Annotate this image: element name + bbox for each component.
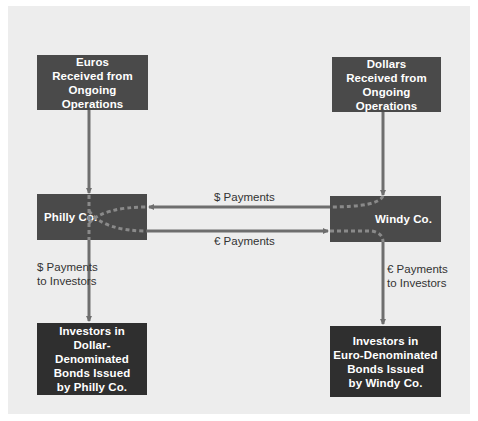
euro-payments-label: € Payments bbox=[214, 234, 275, 248]
euro-to-investors-label: € Payments to Investors bbox=[387, 262, 448, 290]
dollar-investors-box: Investors in Dollar-Denominated Bonds Is… bbox=[37, 323, 147, 395]
euros-received-box: Euros Received from Ongoing Operations bbox=[37, 55, 148, 110]
dollars-received-box: Dollars Received from Ongoing Operations bbox=[332, 57, 441, 112]
euro-investors-box: Investors in Euro-Denominated Bonds Issu… bbox=[330, 326, 441, 397]
philly-co-label: Philly Co. bbox=[44, 210, 97, 224]
dollar-investors-label: Investors in Dollar-Denominated Bonds Is… bbox=[37, 324, 147, 394]
dollar-to-investors-label: $ Payments to Investors bbox=[37, 260, 98, 288]
euro-investors-label: Investors in Euro-Denominated Bonds Issu… bbox=[333, 334, 437, 390]
dollar-payments-label: $ Payments bbox=[214, 190, 275, 204]
dollars-received-label: Dollars Received from Ongoing Operations bbox=[332, 57, 441, 113]
philly-co-box: Philly Co. bbox=[37, 194, 147, 240]
windy-co-label: Windy Co. bbox=[375, 212, 432, 226]
euros-received-label: Euros Received from Ongoing Operations bbox=[37, 55, 148, 111]
windy-co-box: Windy Co. bbox=[330, 196, 441, 242]
